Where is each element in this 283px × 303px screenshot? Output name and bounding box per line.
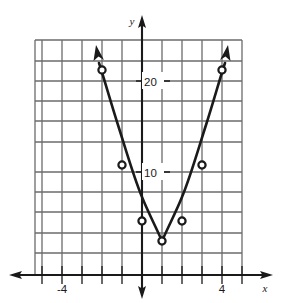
data-point-marker — [118, 161, 125, 168]
data-point-marker — [198, 161, 205, 168]
data-point-marker — [178, 217, 185, 224]
xtick-label-minus-4: -4 — [57, 283, 68, 295]
data-point-marker-vertex — [158, 237, 165, 244]
ytick-label-20: 20 — [144, 76, 157, 88]
y-axis — [138, 15, 146, 299]
ytick-label-10: 10 — [144, 167, 157, 179]
grid-lines — [35, 40, 242, 275]
data-point-marker — [98, 66, 105, 73]
x-axis-label: x — [262, 282, 268, 294]
coordinate-plane-svg: 10 20 -4 4 y x — [0, 0, 283, 303]
data-point-marker — [138, 217, 145, 224]
xtick-label-4: 4 — [219, 283, 226, 295]
graph-figure: 10 20 -4 4 y x — [0, 0, 283, 303]
y-axis-label: y — [129, 15, 135, 27]
data-point-marker — [218, 66, 225, 73]
